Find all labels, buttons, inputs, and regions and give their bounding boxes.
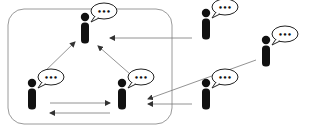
speech-bubble-icon: ••• (38, 69, 64, 88)
speech-bubble-dots: ••• (278, 31, 291, 39)
person-head-icon (202, 79, 210, 87)
person-head-icon (262, 36, 270, 44)
person-body-icon (262, 46, 270, 67)
speech-bubble-icon: ••• (212, 0, 238, 18)
person-outside-right: ••• (262, 26, 298, 67)
person-bottom-left: ••• (28, 69, 64, 110)
person-outside-top: ••• (202, 0, 238, 40)
person-head-icon (118, 79, 126, 87)
speech-bubble-dots: ••• (134, 74, 147, 82)
social-interaction-diagram: •••••••••••••••••• (0, 0, 316, 132)
speech-bubble-dots: ••• (97, 8, 110, 16)
speech-bubble-icon: ••• (272, 26, 298, 45)
person-head-icon (202, 9, 210, 17)
person-body-icon (28, 89, 36, 110)
person-head-icon (28, 79, 36, 87)
speech-bubble-dots: ••• (218, 74, 231, 82)
speech-bubble-icon: ••• (212, 69, 238, 88)
speech-bubble-icon: ••• (128, 69, 154, 88)
person-bottom-right: ••• (118, 69, 154, 110)
speech-bubble-dots: ••• (218, 4, 231, 12)
person-body-icon (202, 19, 210, 40)
people: •••••••••••••••••• (28, 0, 298, 110)
person-body-icon (81, 23, 89, 44)
arrow-bottom-right-to-top-center (98, 46, 130, 74)
person-body-icon (202, 89, 210, 110)
person-head-icon (81, 13, 89, 21)
speech-bubble-icon: ••• (91, 3, 117, 22)
person-outside-bottom: ••• (202, 69, 238, 110)
person-body-icon (118, 89, 126, 110)
speech-bubble-dots: ••• (44, 74, 57, 82)
